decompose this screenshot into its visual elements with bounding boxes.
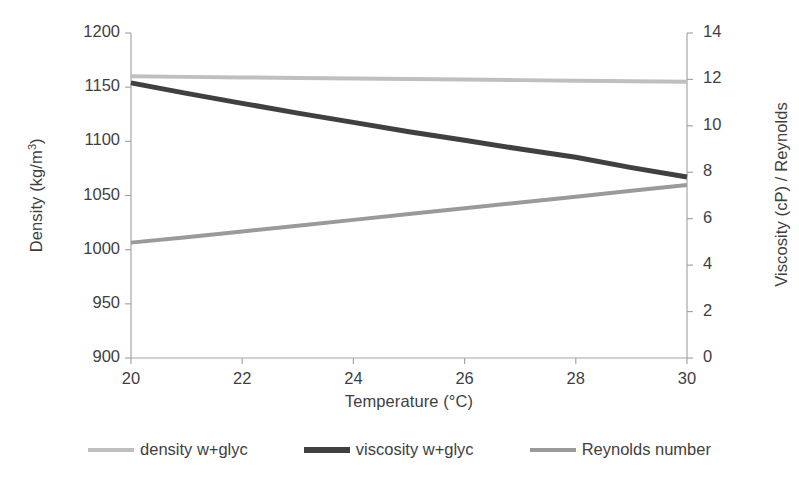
x-axis-title: Temperature (°C) [131, 392, 687, 411]
y-axis-right-tick-label: 10 [703, 115, 743, 134]
y-axis-left-tick-label: 1150 [62, 76, 120, 95]
chart-legend: density w+glycviscosity w+glycReynolds n… [0, 440, 799, 459]
y-axis-left-tick-label: 1100 [62, 130, 120, 149]
x-axis-tick-label: 24 [333, 369, 373, 388]
x-axis-tick-label: 20 [111, 369, 151, 388]
series-line-1 [131, 83, 687, 177]
legend-label: density w+glyc [140, 440, 248, 459]
y-axis-right-tick-label: 2 [703, 301, 743, 320]
y-axis-left-tick-label: 1000 [62, 239, 120, 258]
y-axis-left-tick-label: 950 [62, 293, 120, 312]
y-axis-left-title-text: Density (kg/m [27, 150, 45, 252]
y-axis-left-tick-label: 900 [62, 347, 120, 366]
y-axis-left-tick-label: 1050 [62, 185, 120, 204]
legend-swatch-icon [88, 448, 134, 452]
legend-swatch-icon [304, 447, 350, 453]
chart-container: Density (kg/m3) Viscosity (cP) / Reynold… [0, 0, 799, 490]
y-axis-left-tick-label: 1200 [62, 22, 120, 41]
legend-item[interactable]: viscosity w+glyc [304, 440, 474, 459]
series-line-0 [131, 76, 687, 81]
y-axis-left-title-superscript: 3 [26, 144, 38, 150]
y-axis-right-tick-label: 12 [703, 68, 743, 87]
legend-swatch-icon [530, 448, 576, 452]
legend-label: Reynolds number [582, 440, 711, 459]
y-axis-right-tick-label: 4 [703, 254, 743, 273]
y-axis-left-title-tail: ) [27, 138, 45, 144]
x-axis-tick-label: 30 [667, 369, 707, 388]
x-axis-tick-label: 28 [556, 369, 596, 388]
series-line-2 [131, 185, 687, 243]
y-axis-right-title: Viscosity (cP) / Reynolds [772, 65, 791, 325]
x-axis-tick-label: 22 [222, 369, 262, 388]
x-axis-tick-label: 26 [445, 369, 485, 388]
y-axis-left-title: Density (kg/m3) [26, 85, 47, 305]
y-axis-right-tick-label: 14 [703, 22, 743, 41]
y-axis-right-tick-label: 0 [703, 347, 743, 366]
legend-label: viscosity w+glyc [356, 440, 474, 459]
y-axis-right-tick-label: 8 [703, 161, 743, 180]
legend-item[interactable]: density w+glyc [88, 440, 248, 459]
y-axis-right-tick-label: 6 [703, 208, 743, 227]
legend-item[interactable]: Reynolds number [530, 440, 711, 459]
